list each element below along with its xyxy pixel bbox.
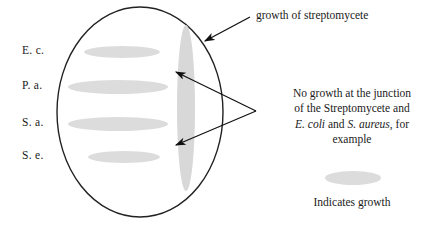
note-conjunction: and bbox=[325, 118, 347, 130]
row-label-p-a: P. a. bbox=[22, 79, 42, 91]
note-species-s-aureus: S. aureus bbox=[347, 118, 389, 130]
row-label-s-e: S. e. bbox=[22, 149, 44, 161]
note-line-3-tail: , for bbox=[390, 118, 409, 130]
growth-streak-p-a bbox=[68, 80, 168, 94]
row-label-e-c: E. c. bbox=[22, 44, 44, 56]
note-species-e-coli: E. coli bbox=[295, 118, 325, 130]
callout-streptomycete-growth: growth of streptomycete bbox=[256, 8, 368, 23]
row-label-s-a: S. a. bbox=[22, 116, 44, 128]
legend-growth-swatch bbox=[325, 171, 381, 185]
petri-dish-outline bbox=[57, 7, 223, 217]
growth-streak-s-a bbox=[68, 117, 168, 131]
streptomycete-streak bbox=[177, 25, 195, 191]
note-line-1: No growth at the junction bbox=[293, 87, 411, 99]
legend-caption: Indicates growth bbox=[264, 196, 440, 208]
note-line-2: of the Streptomycete and bbox=[294, 102, 409, 114]
figure-canvas: E. c. P. a. S. a. S. e. growth of strept… bbox=[0, 0, 441, 225]
growth-streak-e-c bbox=[84, 46, 160, 58]
growth-streak-s-e bbox=[88, 151, 160, 163]
leader-line-streptomycete bbox=[205, 17, 250, 41]
note-no-growth-junction: No growth at the junction of the Strepto… bbox=[264, 86, 440, 148]
note-line-4: example bbox=[333, 133, 372, 145]
